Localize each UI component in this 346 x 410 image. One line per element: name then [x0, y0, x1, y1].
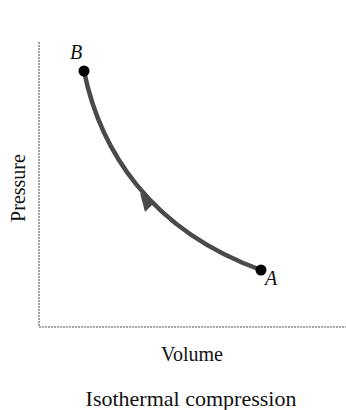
point-b-label: B: [70, 41, 82, 63]
y-axis-label: Pressure: [7, 154, 29, 222]
point-b: [79, 66, 90, 77]
diagram-caption: Isothermal compression: [86, 386, 297, 410]
isotherm-curve: [84, 71, 261, 270]
pv-diagram: B A Pressure Volume Isothermal compressi…: [0, 0, 346, 410]
x-axis-label: Volume: [161, 343, 223, 365]
point-a-label: A: [263, 267, 278, 289]
